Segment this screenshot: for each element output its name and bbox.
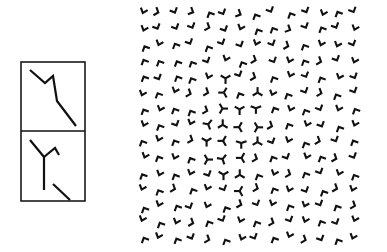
stimulus-figure <box>0 0 387 252</box>
figure-background <box>0 0 387 252</box>
y-arm-stroke <box>203 123 209 124</box>
y-arm-stroke <box>217 158 223 159</box>
figure-root <box>0 0 387 252</box>
